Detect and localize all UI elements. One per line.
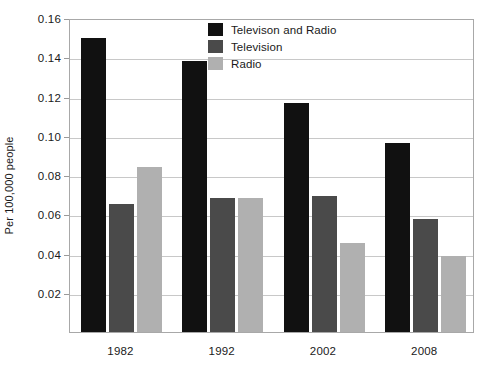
y-tick-label: 0.16 <box>38 13 61 25</box>
legend-item: Televison and Radio <box>208 22 336 37</box>
bar <box>238 198 263 332</box>
bar <box>109 204 134 332</box>
y-tick-label: 0.06 <box>38 209 61 221</box>
bar <box>441 256 466 332</box>
y-tick-label: 0.14 <box>38 52 61 64</box>
x-tick-label: 2008 <box>411 345 437 357</box>
x-tick-label: 1982 <box>107 345 133 357</box>
chart-legend: Televison and RadioTelevisionRadio <box>206 20 340 73</box>
legend-label: Television <box>231 41 283 53</box>
bar <box>312 196 337 332</box>
bar <box>413 219 438 332</box>
legend-item: Radio <box>208 56 336 71</box>
legend-item: Television <box>208 39 336 54</box>
y-tick-label: 0.08 <box>38 170 61 182</box>
x-tick-label: 1992 <box>209 345 235 357</box>
bar <box>210 198 235 332</box>
x-tick-label: 2002 <box>310 345 336 357</box>
y-tick-label: 0.12 <box>38 92 61 104</box>
plot-area: Televison and RadioTelevisionRadio <box>69 19 474 333</box>
bar <box>340 243 365 332</box>
legend-swatch-icon <box>208 23 223 36</box>
y-tick-label: 0.10 <box>38 131 61 143</box>
legend-swatch-icon <box>208 40 223 53</box>
y-axis-ticks: 0.020.040.060.080.100.120.140.16 <box>0 0 69 371</box>
legend-label: Televison and Radio <box>231 24 336 36</box>
legend-label: Radio <box>231 58 262 70</box>
bar <box>385 143 410 332</box>
bar <box>182 61 207 332</box>
bar-chart-figure: Per 100,000 people 0.020.040.060.080.100… <box>0 0 483 371</box>
y-tick-label: 0.04 <box>38 249 61 261</box>
bar <box>137 167 162 332</box>
bar <box>81 38 106 332</box>
legend-swatch-icon <box>208 57 223 70</box>
x-axis-ticks: 1982199220022008 <box>69 333 474 371</box>
y-tick-label: 0.02 <box>38 288 61 300</box>
bar <box>284 103 309 332</box>
